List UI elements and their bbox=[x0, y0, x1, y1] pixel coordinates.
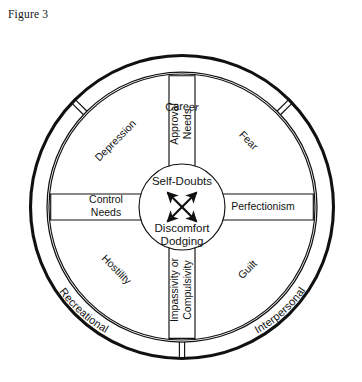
spoke-label-control-needs-line1: Control bbox=[89, 193, 123, 205]
ring-label-career-text: Career bbox=[164, 100, 200, 113]
spoke-label-impassivity-line1: Impassivity or bbox=[168, 257, 180, 322]
hub-bottom-label-line1: Discomfort bbox=[155, 222, 211, 234]
wheel-diagram: Self-Doubts Discomfort Dodging Approval … bbox=[0, 0, 362, 382]
ring-label-career: Career bbox=[164, 100, 200, 113]
hub-bottom-label-line2: Dodging bbox=[161, 235, 204, 247]
spoke-label-impassivity-line2: Compulsivity bbox=[181, 259, 193, 319]
spoke-label-control-needs: Control Needs bbox=[89, 193, 123, 218]
figure-root: Figure 3 bbox=[0, 0, 362, 382]
spoke-label-impassivity-or-compulsivity: Impassivity or Compulsivity bbox=[168, 257, 193, 322]
spoke-label-control-needs-line2: Needs bbox=[91, 206, 121, 218]
spoke-label-approval-needs-line2: Needs bbox=[181, 109, 193, 139]
hub-top-label: Self-Doubts bbox=[152, 175, 212, 187]
spoke-label-perfectionism: Perfectionism bbox=[231, 200, 295, 212]
